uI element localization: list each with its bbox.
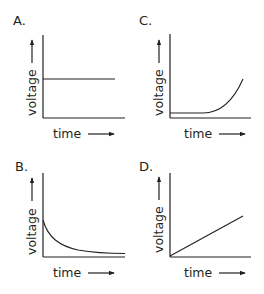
panel-c: C. voltage time: [139, 13, 251, 141]
linear-line: [170, 216, 243, 256]
y-axis-label: voltage: [24, 208, 39, 255]
panel-label: A.: [13, 13, 26, 28]
panel-label: D.: [139, 159, 153, 174]
panel-d: D. voltage time: [139, 159, 251, 280]
panel-b: B. voltage time: [15, 159, 125, 280]
decay-curve: [43, 220, 125, 254]
voltage-time-graphs: A. voltage time C. voltage time B. volta…: [0, 0, 264, 294]
x-axis-label: time: [53, 265, 82, 280]
panel-a: A. voltage time: [13, 13, 125, 141]
panel-label: C.: [139, 13, 152, 28]
x-axis-label: time: [184, 126, 213, 141]
y-axis-label: voltage: [24, 69, 39, 116]
x-axis-label: time: [184, 265, 213, 280]
growth-curve: [170, 79, 243, 113]
y-axis-label: voltage: [151, 206, 166, 253]
y-axis-label: voltage: [151, 69, 166, 116]
x-axis-label: time: [53, 126, 82, 141]
panel-label: B.: [15, 159, 28, 174]
